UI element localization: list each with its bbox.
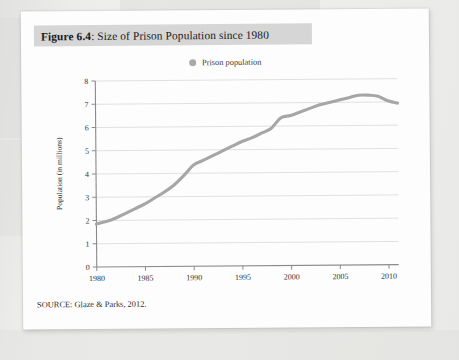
- svg-text:7: 7: [84, 100, 88, 109]
- svg-text:1990: 1990: [186, 273, 202, 282]
- figure-number: Figure 6.4: [41, 30, 91, 42]
- plot-area: Population (in millions) 012345678 19801…: [53, 71, 405, 296]
- svg-text:1980: 1980: [89, 274, 105, 283]
- figure-caption-text: Figure 6.4: Size of Prison Population si…: [41, 28, 269, 42]
- figure-caption: Figure 6.4: Size of Prison Population si…: [34, 23, 312, 46]
- svg-text:2010: 2010: [381, 272, 397, 281]
- svg-text:4: 4: [85, 170, 89, 179]
- svg-text:6: 6: [85, 123, 89, 132]
- scanned-page-view: Figure 6.4: Size of Prison Population si…: [0, 0, 459, 360]
- svg-text:1: 1: [86, 240, 90, 249]
- circle-marker-icon: [189, 59, 196, 66]
- svg-text:0: 0: [86, 263, 90, 272]
- svg-text:2005: 2005: [332, 272, 348, 281]
- svg-text:3: 3: [85, 193, 89, 202]
- figure-page: Figure 6.4: Size of Prison Population si…: [21, 8, 431, 329]
- x-axis-ticks: 1980198519901995200020052010: [89, 265, 397, 283]
- line-chart: 012345678 1980198519901995200020052010: [67, 71, 405, 296]
- y-axis-label: Population (in millions): [51, 73, 67, 273]
- y-axis-label-text: Population (in millions): [54, 137, 64, 210]
- svg-text:1985: 1985: [138, 274, 154, 283]
- series-line-prison-population: [95, 95, 398, 224]
- x-axis-line: [97, 265, 399, 267]
- chart-legend: Prison population: [21, 56, 429, 68]
- svg-text:1995: 1995: [235, 273, 251, 282]
- background-stripe: [0, 330, 459, 360]
- legend-item-label: Prison population: [202, 58, 261, 67]
- gridlines: [95, 79, 398, 244]
- svg-text:8: 8: [84, 77, 88, 86]
- y-axis-line: [95, 81, 96, 267]
- source-note: SOURCE: Glaze & Parks, 2012.: [37, 300, 146, 310]
- figure-title: Size of Prison Population since 1980: [97, 28, 269, 41]
- y-axis-ticks: 012345678: [84, 77, 97, 272]
- svg-text:5: 5: [85, 147, 89, 156]
- svg-text:2000: 2000: [284, 272, 300, 281]
- svg-text:2: 2: [85, 216, 89, 225]
